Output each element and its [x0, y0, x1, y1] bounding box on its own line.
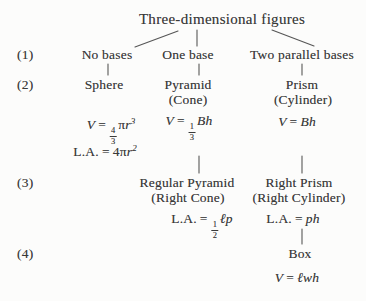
diagram-title: Three-dimensional figures: [139, 12, 305, 26]
regular-pyramid-lateral-area-formula: L.A.=12ℓp: [171, 212, 232, 241]
sphere-lateral-area-formula: L.A.=4πr2: [73, 141, 136, 159]
formula-rhs: ph: [306, 211, 320, 226]
node-regular-pyramid: Regular Pyramid: [140, 176, 235, 190]
fraction: 12: [212, 220, 218, 241]
equals-sign: =: [102, 144, 110, 159]
equals-sign: =: [98, 117, 106, 132]
formula-rhs: ℓwh: [297, 270, 319, 285]
box-volume-formula: V=ℓwh: [275, 271, 319, 285]
equals-sign: =: [200, 211, 208, 226]
node-right-prism-alt: (Right Cylinder): [253, 191, 346, 205]
figure-canvas: Three-dimensional figures (1) (2) (3) (4…: [0, 0, 366, 301]
equals-sign: =: [295, 211, 303, 226]
connector-root-two-parallel-bases: [272, 30, 314, 46]
equals-sign: =: [290, 114, 298, 129]
exponent: 2: [132, 143, 137, 153]
formula-rhs: Bh: [197, 113, 212, 128]
node-no-bases: No bases: [82, 48, 133, 62]
node-two-parallel-bases: Two parallel bases: [250, 48, 354, 62]
node-sphere: Sphere: [85, 78, 124, 92]
formula-lhs: V: [275, 270, 283, 285]
equals-sign: =: [177, 113, 185, 128]
formula-lhs: V: [278, 114, 286, 129]
row-marker-3: (3): [17, 176, 33, 190]
row-marker-4: (4): [17, 247, 33, 261]
formula-lhs: L.A.: [266, 211, 292, 226]
formula-lhs: V: [166, 113, 174, 128]
formula-lhs: L.A.: [73, 144, 99, 159]
row-marker-2: (2): [17, 78, 33, 92]
fraction-denominator: 2: [212, 231, 218, 241]
formula-rhs: ℓp: [220, 211, 233, 226]
formula-lhs: L.A.: [171, 211, 197, 226]
node-prism: Prism: [286, 78, 319, 92]
node-prism-alt: (Cylinder): [274, 93, 332, 107]
pi-symbol: π: [118, 117, 125, 132]
node-pyramid: Pyramid: [164, 78, 211, 92]
formula-lhs: V: [87, 117, 95, 132]
formula-rhs: Bh: [300, 114, 315, 129]
node-regular-pyramid-alt: (Right Cone): [151, 191, 224, 205]
connector-root-no-bases: [135, 31, 178, 47]
equals-sign: =: [286, 270, 294, 285]
node-right-prism: Right Prism: [265, 176, 332, 190]
pyramid-volume-formula: V=13Bh: [166, 114, 213, 143]
fraction: 13: [189, 122, 195, 143]
node-pyramid-alt: (Cone): [169, 93, 208, 107]
row-marker-1: (1): [17, 48, 33, 62]
exponent: 3: [131, 116, 136, 126]
prism-volume-formula: V=Bh: [278, 115, 316, 129]
node-box: Box: [288, 247, 311, 261]
fraction-denominator: 3: [189, 133, 195, 143]
node-one-base: One base: [162, 48, 213, 62]
right-prism-lateral-area-formula: L.A.=ph: [266, 212, 319, 226]
